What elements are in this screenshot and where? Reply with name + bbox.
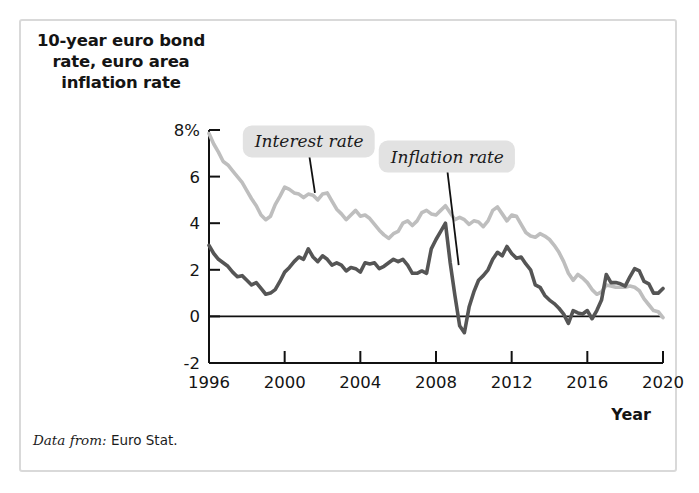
y-axis-tick-label: 0	[190, 307, 201, 326]
y-axis-tick-label: 4	[190, 214, 201, 233]
y-axis-tick-label: 2	[190, 261, 201, 280]
chart-annotations-group: Interest rateInflation rate	[243, 125, 515, 265]
x-axis-tick-label: 2000	[264, 373, 306, 392]
annotation-leader-line	[309, 155, 315, 192]
y-axis-tick-label: -2	[184, 354, 200, 373]
y-axis-tick-label: 8%	[174, 121, 200, 140]
annotation-label-interest-rate: Interest rate	[254, 131, 364, 151]
x-axis-tick-label: 2012	[491, 373, 533, 392]
annotation-label-inflation-rate: Inflation rate	[390, 147, 504, 167]
x-axis-title-group: Year	[610, 405, 651, 424]
x-axis-tick-label: 2016	[566, 373, 608, 392]
x-axis-tick-label: 2020	[642, 373, 684, 392]
y-axis-tick-label: 6	[190, 168, 201, 187]
figure-container: 10-year euro bond rate, euro area inflat…	[0, 0, 699, 493]
x-axis-tick-label: 2008	[415, 373, 457, 392]
source-note: Data from: Euro Stat.	[33, 432, 178, 448]
x-axis-tick-label: 1996	[188, 373, 230, 392]
source-note-lead: Data from:	[33, 432, 107, 448]
x-axis-title: Year	[610, 405, 651, 424]
line-chart-plot: -202468%1996200020042008201220162020 Int…	[0, 0, 699, 493]
source-note-body: Euro Stat.	[111, 432, 178, 448]
x-axis-tick-label: 2004	[339, 373, 381, 392]
